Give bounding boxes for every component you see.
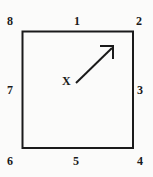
label-corner-8: 8 <box>7 15 13 27</box>
point-label-x: X <box>62 75 71 87</box>
square-outline <box>23 32 134 149</box>
label-edge-1: 1 <box>74 15 80 27</box>
square-direction-diagram: 8 1 2 3 4 5 6 7 X <box>0 0 153 177</box>
label-edge-7: 7 <box>7 84 13 96</box>
label-corner-6: 6 <box>7 155 13 167</box>
label-edge-5: 5 <box>73 155 79 167</box>
label-corner-2: 2 <box>136 15 142 27</box>
label-edge-3: 3 <box>137 84 143 96</box>
arrow-shaft <box>76 48 112 83</box>
label-corner-4: 4 <box>137 155 143 167</box>
